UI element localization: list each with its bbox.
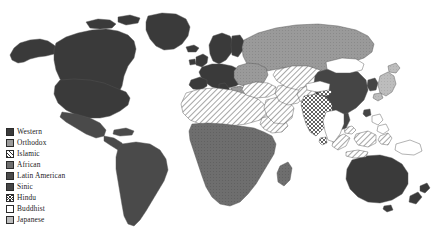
legend-swatch-hindu-icon	[6, 194, 14, 202]
legend-label-african: African	[17, 160, 41, 169]
legend-label-hindu: Hindu	[17, 193, 36, 202]
legend-swatch-western-icon	[6, 128, 14, 136]
legend-item-african[interactable]: African	[6, 159, 92, 170]
legend-item-orthodox[interactable]: Orthodox	[6, 137, 92, 148]
legend-swatch-islamic-icon	[6, 150, 14, 158]
legend-item-islamic[interactable]: Islamic	[6, 148, 92, 159]
legend-swatch-japanese-icon	[6, 216, 14, 224]
legend-item-buddhist[interactable]: Buddhist	[6, 203, 92, 214]
legend-swatch-buddhist-icon	[6, 205, 14, 213]
legend-swatch-sinic-icon	[6, 183, 14, 191]
legend-item-latin-american[interactable]: Latin American	[6, 170, 92, 181]
region-korea	[367, 78, 378, 91]
world-map-figure: Western Orthodox Islamic African Latin A…	[0, 0, 440, 237]
legend-label-latin-american: Latin American	[17, 171, 65, 180]
legend-label-orthodox: Orthodox	[17, 138, 47, 147]
region-ireland	[189, 59, 196, 65]
legend-label-islamic: Islamic	[17, 149, 40, 158]
legend-swatch-orthodox-icon	[6, 139, 14, 147]
legend-label-western: Western	[17, 127, 42, 136]
legend-label-japanese: Japanese	[17, 215, 44, 224]
legend-swatch-latin-american-icon	[6, 172, 14, 180]
legend-swatch-african-icon	[6, 161, 14, 169]
legend-item-western[interactable]: Western	[6, 126, 92, 137]
legend-item-japanese[interactable]: Japanese	[6, 214, 92, 225]
legend-label-buddhist: Buddhist	[17, 204, 45, 213]
map-legend: Western Orthodox Islamic African Latin A…	[6, 126, 92, 225]
legend-label-sinic: Sinic	[17, 182, 33, 191]
legend-item-sinic[interactable]: Sinic	[6, 181, 92, 192]
legend-item-hindu[interactable]: Hindu	[6, 192, 92, 203]
